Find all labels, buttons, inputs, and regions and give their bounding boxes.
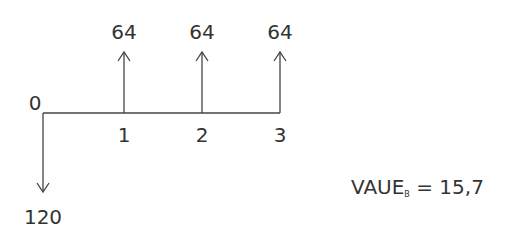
time-label-3: 3 — [274, 125, 287, 145]
time-label-1: 1 — [118, 125, 131, 145]
cash-flow-diagram: 64 64 64 0 1 2 3 120 VAUEB = 15,7 — [0, 0, 519, 237]
result-value: 15,7 — [439, 175, 484, 199]
time-label-2: 2 — [196, 125, 209, 145]
result-name: VAUE — [351, 175, 404, 199]
vaue-result: VAUEB = 15,7 — [351, 177, 484, 205]
time-label-0: 0 — [29, 93, 42, 113]
inflow-amount-1: 64 — [111, 22, 136, 42]
result-subscript: B — [404, 190, 410, 199]
outflow-amount-0: 120 — [24, 207, 62, 227]
inflow-amount-2: 64 — [189, 22, 214, 42]
inflow-amount-3: 64 — [267, 22, 292, 42]
result-equals: = — [416, 175, 433, 199]
